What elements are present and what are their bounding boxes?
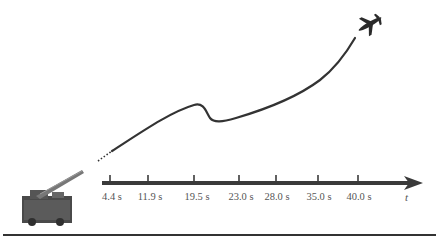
tick-label: 19.5 s (184, 191, 209, 202)
tick-label: 23.0 s (228, 191, 253, 202)
missile-launcher-vehicle-icon (22, 170, 84, 226)
tick-label: 4.4 s (102, 191, 122, 202)
airplane-icon (354, 9, 387, 39)
time-axis (102, 175, 423, 190)
trajectory-figure: 4.4 s 11.9 s 19.5 s 23.0 s 28.0 s 35.0 s… (0, 0, 445, 238)
tick-label: 40.0 s (346, 191, 371, 202)
tick-label: 11.9 s (138, 191, 163, 202)
figure-canvas (0, 0, 445, 238)
trajectory-curve (112, 38, 355, 151)
axis-variable-label: t (405, 191, 408, 203)
trajectory-dotted-start (98, 151, 112, 161)
tick-label: 28.0 s (264, 191, 289, 202)
tick-label: 35.0 s (306, 191, 331, 202)
